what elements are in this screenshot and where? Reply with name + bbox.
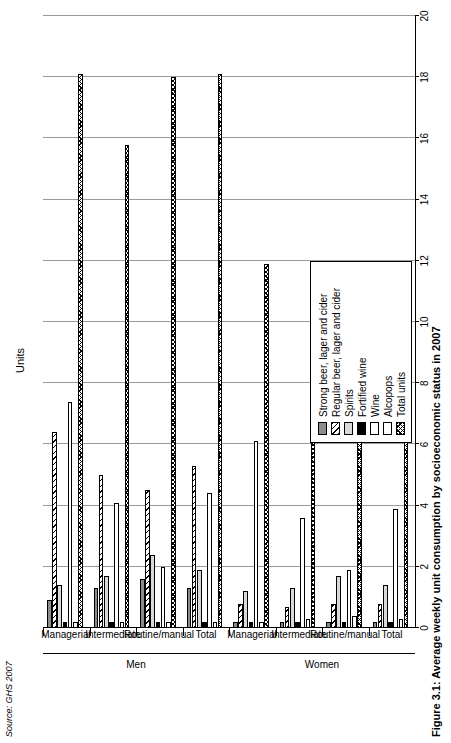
bar bbox=[383, 585, 388, 628]
bar bbox=[202, 622, 207, 628]
legend-label: Spirits bbox=[344, 389, 355, 417]
legend-swatch-total bbox=[396, 422, 405, 435]
legend-item: Alcopops bbox=[383, 376, 394, 435]
bar bbox=[295, 622, 300, 628]
bar bbox=[306, 619, 311, 628]
x-tick-label: 4 bbox=[419, 494, 430, 518]
bar bbox=[166, 622, 171, 628]
bar bbox=[336, 576, 341, 628]
figure: Source: GHS 2007 Figure 3.1: Average wee… bbox=[0, 0, 451, 743]
x-tick-mark bbox=[415, 505, 419, 506]
legend-swatch-strong bbox=[318, 422, 327, 435]
x-tick-mark bbox=[415, 566, 419, 567]
bar bbox=[326, 622, 331, 628]
bar bbox=[52, 432, 57, 628]
category-label: Routine/manual bbox=[310, 629, 380, 640]
bar bbox=[280, 622, 285, 628]
bar bbox=[213, 622, 218, 628]
figure-rotated-wrapper: Source: GHS 2007 Figure 3.1: Average wee… bbox=[0, 0, 451, 743]
legend-item: Regular beer, lager and cider bbox=[331, 288, 342, 435]
bar bbox=[290, 588, 295, 628]
bar bbox=[285, 607, 290, 628]
bar bbox=[156, 622, 161, 628]
legend-label: Alcopops bbox=[383, 376, 394, 417]
legend-item: Strong beer, lager and cider bbox=[318, 294, 329, 435]
bar bbox=[243, 591, 248, 628]
legend-swatch-wine bbox=[370, 422, 379, 435]
x-axis-title: Units bbox=[14, 348, 26, 373]
gridline-14 bbox=[43, 199, 415, 200]
bar bbox=[249, 622, 254, 628]
legend-item: Spirits bbox=[344, 389, 355, 435]
x-tick-label: 2 bbox=[419, 555, 430, 579]
x-tick-mark bbox=[415, 137, 419, 138]
bar bbox=[109, 622, 114, 628]
bar bbox=[63, 622, 68, 628]
x-tick-label: 18 bbox=[419, 65, 430, 89]
gridline-20 bbox=[43, 15, 415, 16]
group-bracket bbox=[43, 653, 229, 654]
bar bbox=[94, 588, 99, 628]
x-tick-mark bbox=[415, 260, 419, 261]
legend-swatch-alcopops bbox=[383, 422, 392, 435]
bar bbox=[78, 74, 83, 628]
figure-caption: Figure 3.1: Average weekly unit consumpt… bbox=[430, 326, 442, 737]
bar bbox=[259, 622, 264, 628]
legend-item: Fortified wine bbox=[357, 358, 368, 435]
bar bbox=[73, 622, 78, 628]
bar bbox=[388, 622, 393, 628]
legend-swatch-spirits bbox=[344, 422, 353, 435]
x-tick-mark bbox=[415, 15, 419, 16]
bar bbox=[171, 77, 176, 628]
bar bbox=[120, 622, 125, 628]
legend: Strong beer, lager and ciderRegular beer… bbox=[310, 261, 412, 443]
x-tick-label: 14 bbox=[419, 188, 430, 212]
bar bbox=[192, 466, 197, 628]
bar bbox=[145, 490, 150, 628]
x-tick-label: 20 bbox=[419, 4, 430, 28]
bar bbox=[197, 570, 202, 628]
legend-label: Total units bbox=[396, 372, 407, 417]
x-tick-mark bbox=[415, 199, 419, 200]
category-label: Managerial bbox=[42, 629, 91, 640]
gridline-16 bbox=[43, 137, 415, 138]
legend-swatch-regular bbox=[331, 422, 340, 435]
bar bbox=[140, 579, 145, 628]
legend-swatch-fortified bbox=[357, 422, 366, 435]
bar bbox=[218, 74, 223, 628]
category-label: Total bbox=[381, 629, 402, 640]
x-tick-label: 10 bbox=[419, 310, 430, 334]
bar bbox=[264, 264, 269, 628]
legend-label: Fortified wine bbox=[357, 358, 368, 417]
bar bbox=[378, 604, 383, 628]
bar bbox=[373, 622, 378, 628]
bar bbox=[233, 622, 238, 628]
bar bbox=[399, 619, 404, 628]
legend-item: Total units bbox=[396, 372, 407, 435]
group-bracket bbox=[229, 653, 415, 654]
x-tick-label: 12 bbox=[419, 249, 430, 273]
source-note: Source: GHS 2007 bbox=[4, 661, 14, 737]
group-label: Men bbox=[126, 659, 145, 670]
bar bbox=[347, 570, 352, 628]
bar bbox=[150, 555, 155, 628]
bar bbox=[342, 622, 347, 628]
bar bbox=[207, 493, 212, 628]
bar bbox=[238, 604, 243, 628]
bar bbox=[47, 600, 52, 628]
x-tick-label: 16 bbox=[419, 126, 430, 150]
category-label: Routine/manual bbox=[124, 629, 194, 640]
bar bbox=[57, 585, 62, 628]
legend-label: Regular beer, lager and cider bbox=[331, 288, 342, 417]
bar bbox=[161, 567, 166, 628]
bar bbox=[352, 616, 357, 628]
bar bbox=[114, 503, 119, 628]
category-label: Total bbox=[195, 629, 216, 640]
bar bbox=[68, 402, 73, 628]
x-tick-label: 6 bbox=[419, 432, 430, 456]
x-tick-label: 0 bbox=[419, 616, 430, 640]
gridline-18 bbox=[43, 76, 415, 77]
x-tick-label: 8 bbox=[419, 371, 430, 395]
group-label: Women bbox=[305, 659, 339, 670]
bar bbox=[393, 509, 398, 628]
